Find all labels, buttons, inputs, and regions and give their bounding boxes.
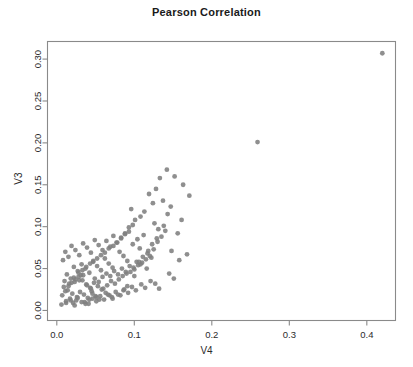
- x-axis-ticks: 0.00.10.20.30.4: [50, 321, 373, 340]
- svg-text:0.3: 0.3: [283, 329, 296, 340]
- svg-text:0.2: 0.2: [205, 329, 218, 340]
- data-points: [59, 51, 385, 308]
- svg-text:0.30: 0.30: [32, 50, 43, 68]
- scatter-plot-figure: Pearson Correlation 0.00.10.20.30.4 0.00…: [0, 0, 413, 367]
- svg-text:0.20: 0.20: [32, 134, 43, 153]
- svg-text:0.15: 0.15: [32, 176, 43, 195]
- svg-text:0.00: 0.00: [32, 301, 43, 320]
- x-axis-label: V4: [0, 345, 413, 356]
- svg-text:0.10: 0.10: [32, 217, 43, 236]
- svg-text:0.1: 0.1: [128, 329, 141, 340]
- y-axis-ticks: 0.000.050.100.150.200.250.30: [32, 50, 48, 320]
- svg-text:0.05: 0.05: [32, 259, 43, 278]
- plot-canvas: 0.00.10.20.30.4 0.000.050.100.150.200.25…: [0, 0, 413, 367]
- plot-frame: [48, 42, 396, 321]
- svg-text:0.4: 0.4: [360, 329, 373, 340]
- y-axis-label: V3: [13, 149, 24, 209]
- svg-text:0.25: 0.25: [32, 92, 43, 111]
- svg-text:0.0: 0.0: [50, 329, 63, 340]
